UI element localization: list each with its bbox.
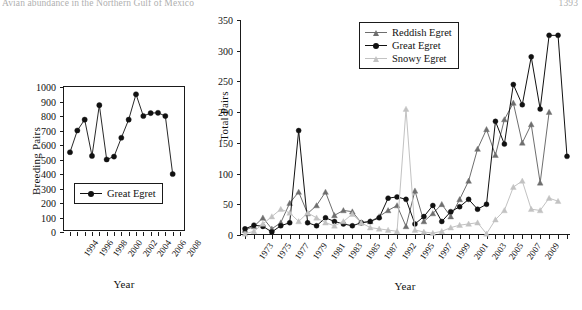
data-point — [448, 209, 453, 214]
x-axis-tick — [558, 235, 559, 239]
data-point — [104, 157, 109, 162]
x-axis-tick-label: 1995 — [418, 241, 437, 261]
x-axis-tick — [272, 235, 273, 239]
data-point — [350, 223, 355, 228]
y-axis-tick-label: 1000 — [22, 82, 56, 93]
x-axis-tick — [478, 235, 479, 239]
x-axis-tick — [85, 232, 86, 236]
data-point — [170, 171, 175, 176]
data-point — [403, 224, 409, 229]
data-point — [141, 113, 146, 118]
data-point — [565, 154, 570, 159]
data-point — [368, 219, 373, 224]
x-axis-tick — [158, 232, 159, 236]
x-axis-tick — [70, 232, 71, 236]
data-point — [519, 178, 525, 183]
series-line — [70, 94, 173, 174]
data-point — [341, 208, 347, 213]
x-axis-tick-label: 1973 — [257, 241, 276, 261]
legend-item[interactable]: Great Egret — [365, 39, 452, 52]
x-axis-tick — [415, 235, 416, 239]
right-panel-x-axis-title: Year — [240, 280, 570, 292]
data-point — [502, 208, 508, 213]
data-point — [510, 184, 516, 189]
legend-item[interactable]: Reddish Egret — [365, 26, 452, 39]
data-point — [278, 206, 284, 211]
x-axis-tick-label: 1997 — [436, 241, 455, 261]
x-axis-tick-label: 1996 — [96, 238, 115, 258]
data-point — [75, 128, 80, 133]
data-point — [502, 117, 508, 122]
y-axis-tick-label: 400 — [22, 169, 56, 180]
y-axis-tick-label: 0 — [22, 227, 56, 238]
legend-swatch-icon — [365, 40, 387, 51]
data-point — [520, 102, 525, 107]
x-axis-tick — [173, 232, 174, 236]
y-axis-tick-label: 300 — [199, 45, 233, 56]
data-point — [287, 210, 293, 215]
x-axis-tick — [451, 235, 452, 239]
data-point — [296, 189, 302, 194]
x-axis-tick — [567, 235, 568, 239]
x-axis-tick-label: 1994 — [82, 238, 101, 258]
left-panel-legend: Great Egret — [74, 183, 163, 204]
legend-label: Snowy Egret — [392, 52, 447, 65]
x-axis-tick — [317, 235, 318, 239]
x-axis-tick — [504, 235, 505, 239]
data-point — [493, 152, 499, 157]
data-point — [323, 189, 329, 194]
data-point — [377, 215, 382, 220]
x-axis-tick — [352, 235, 353, 239]
x-axis-tick — [469, 235, 470, 239]
x-axis-tick — [136, 232, 137, 236]
x-axis-tick — [388, 235, 389, 239]
data-point — [89, 153, 94, 158]
x-axis-tick-label: 1977 — [292, 241, 311, 261]
x-axis-tick — [129, 232, 130, 236]
x-axis-tick — [495, 235, 496, 239]
running-head-title: Avian abundance in the Northern Gulf of … — [2, 0, 194, 8]
data-point — [547, 33, 552, 38]
data-point — [155, 110, 160, 115]
y-axis-tick-label: 100 — [199, 168, 233, 179]
data-point — [528, 206, 534, 211]
data-point — [502, 142, 507, 147]
x-axis-tick — [180, 232, 181, 236]
x-axis-tick — [531, 235, 532, 239]
x-axis-tick-label: 1999 — [453, 241, 472, 261]
x-axis-tick — [370, 235, 371, 239]
data-point — [367, 225, 373, 230]
legend-swatch-icon — [80, 188, 102, 199]
y-axis-tick-label: 0 — [199, 230, 233, 241]
x-axis-tick — [143, 232, 144, 236]
y-axis-tick-label: 300 — [22, 183, 56, 194]
data-point — [412, 188, 418, 193]
x-axis-tick — [165, 232, 166, 236]
x-axis-tick — [522, 235, 523, 239]
y-axis-tick-label: 700 — [22, 125, 56, 136]
x-axis-tick-label: 2006 — [170, 238, 189, 258]
x-axis-tick — [92, 232, 93, 236]
x-axis-tick — [513, 235, 514, 239]
data-point — [403, 106, 409, 111]
x-axis-tick — [254, 235, 255, 239]
x-axis-tick — [549, 235, 550, 239]
left-panel-plot-area: 0100200300400500600700800900100019941996… — [63, 86, 185, 231]
data-point — [546, 109, 552, 114]
data-point — [511, 82, 516, 87]
data-point — [260, 215, 266, 220]
data-point — [385, 208, 391, 213]
data-point — [296, 128, 301, 133]
data-point — [404, 197, 409, 202]
data-point — [314, 215, 320, 220]
data-point — [439, 228, 445, 233]
x-axis-tick-label: 2004 — [155, 238, 174, 258]
legend-label: Great Egret — [107, 187, 156, 200]
x-axis-tick — [442, 235, 443, 239]
x-axis-tick — [281, 235, 282, 239]
series-layer — [64, 87, 186, 232]
legend-item[interactable]: Snowy Egret — [365, 52, 452, 65]
legend-item[interactable]: Great Egret — [80, 187, 156, 200]
legend-label: Reddish Egret — [392, 26, 452, 39]
x-axis-tick — [121, 232, 122, 236]
